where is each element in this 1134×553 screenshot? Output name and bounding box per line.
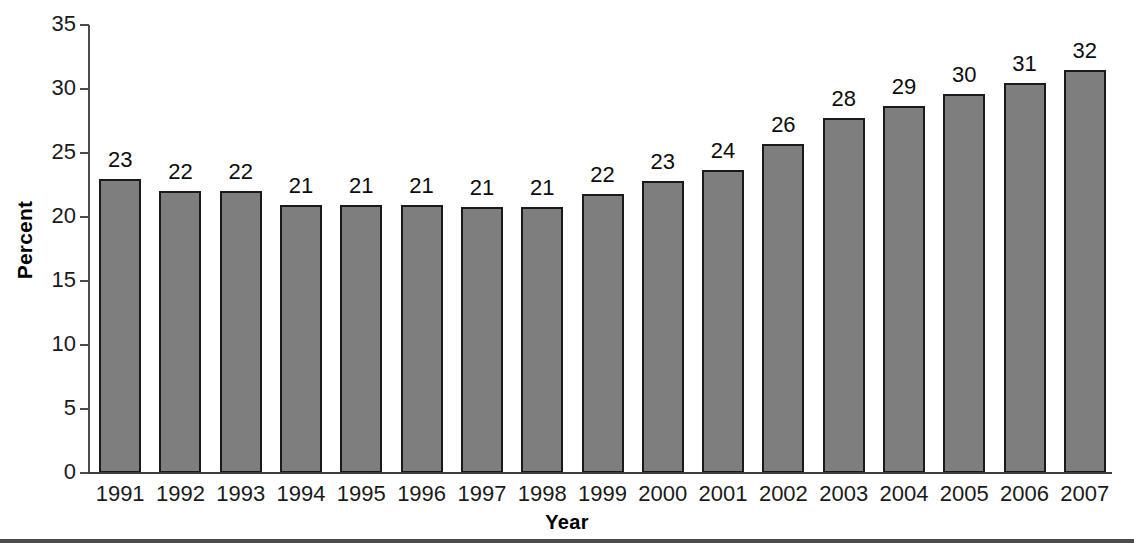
x-axis-tick-label: 2003: [812, 481, 876, 507]
bar: [702, 170, 744, 473]
bar: [642, 181, 684, 473]
bar-value-label: 26: [748, 112, 818, 138]
x-axis-tick-label: 2001: [691, 481, 755, 507]
x-axis-tick-label: 1997: [450, 481, 514, 507]
bar: [461, 207, 503, 473]
bar: [280, 205, 322, 473]
plot-area: 2322222121212121222324262829303132: [88, 25, 1113, 473]
bar: [1004, 83, 1046, 473]
bar: [823, 118, 865, 473]
x-axis-tick-label: 2006: [993, 481, 1057, 507]
x-axis-tick-label: 1995: [329, 481, 393, 507]
x-axis-tick-label: 1991: [88, 481, 152, 507]
bar: [1064, 70, 1106, 473]
y-axis-tick-label: 25: [4, 139, 76, 165]
x-axis-tick-label: 2005: [932, 481, 996, 507]
bar: [883, 106, 925, 473]
x-axis-tick-label: 2000: [631, 481, 695, 507]
bar-chart-figure: Percent 05101520253035 23222221212121212…: [0, 0, 1134, 553]
y-axis-tick-label: 0: [4, 459, 76, 485]
x-axis-tick-label: 2004: [872, 481, 936, 507]
x-axis-tick-label: 1998: [510, 481, 574, 507]
bar: [340, 205, 382, 473]
bar: [521, 207, 563, 473]
bar: [943, 94, 985, 473]
x-axis-tick-label: 1993: [209, 481, 273, 507]
y-axis-tick-label: 15: [4, 267, 76, 293]
bar-value-label: 32: [1050, 38, 1120, 64]
bar: [159, 191, 201, 473]
y-axis-tick-label: 10: [4, 331, 76, 357]
bar: [582, 194, 624, 473]
bottom-divider-rule: [0, 539, 1134, 543]
x-axis-title: Year: [0, 511, 1134, 534]
x-axis-tick-label: 2002: [751, 481, 815, 507]
x-axis-tick-label: 2007: [1053, 481, 1117, 507]
y-axis-tick-label: 5: [4, 395, 76, 421]
x-axis-line: [88, 472, 1112, 474]
bar: [401, 205, 443, 473]
y-axis-tick-label: 35: [4, 11, 76, 37]
bar: [99, 179, 141, 473]
bar: [220, 191, 262, 473]
x-axis-tick-label: 1994: [269, 481, 333, 507]
y-axis-tick-label: 20: [4, 203, 76, 229]
x-axis-tick-label: 1992: [148, 481, 212, 507]
bar: [762, 144, 804, 473]
x-axis-tick-label: 1996: [390, 481, 454, 507]
bar-value-label: 24: [688, 138, 758, 164]
x-axis-tick-label: 1999: [571, 481, 635, 507]
y-axis-tick-label: 30: [4, 75, 76, 101]
